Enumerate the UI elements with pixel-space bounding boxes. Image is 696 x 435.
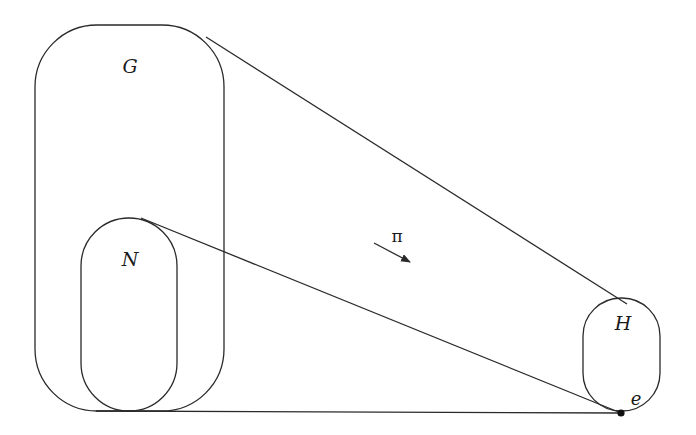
projection-line-bottom [96,411,621,413]
set-g-label: G [122,55,137,77]
set-h-label: H [614,312,632,334]
identity-point [617,409,624,416]
projection-line-g-top [206,37,627,304]
point-label: e [631,388,642,409]
diagram-canvas: G N H π e [0,0,696,435]
set-n-shape [81,218,177,411]
map-label: π [391,226,402,246]
set-n-label: N [121,248,140,270]
